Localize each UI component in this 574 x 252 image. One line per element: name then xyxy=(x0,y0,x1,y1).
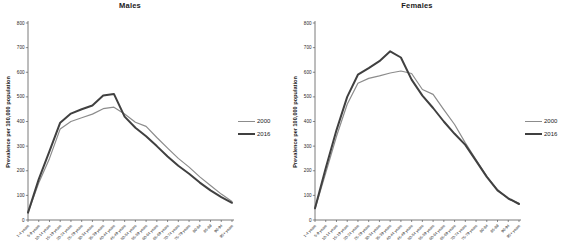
males-legend: 2000 2016 xyxy=(238,118,270,144)
svg-text:0: 0 xyxy=(309,218,312,223)
females-chart: Females Prevalence per 100,000 populatio… xyxy=(287,0,574,252)
svg-text:85-89: 85-89 xyxy=(489,223,500,234)
svg-text:400: 400 xyxy=(304,119,312,124)
svg-text:500: 500 xyxy=(304,94,312,99)
females-legend-item-2016: 2016 xyxy=(525,131,557,137)
prevalence-by-age-figure: Males Prevalence per 100,000 population … xyxy=(0,0,574,252)
svg-text:300: 300 xyxy=(17,144,25,149)
series-2000-line xyxy=(315,71,519,209)
svg-text:300: 300 xyxy=(304,144,312,149)
series-2016-line xyxy=(315,51,519,208)
svg-text:85-89: 85-89 xyxy=(202,223,213,234)
svg-text:600: 600 xyxy=(17,70,25,75)
females-legend-label-2000: 2000 xyxy=(544,118,557,124)
svg-text:0: 0 xyxy=(22,218,25,223)
svg-text:800: 800 xyxy=(17,21,25,26)
svg-text:100: 100 xyxy=(17,193,25,198)
males-chart: Males Prevalence per 100,000 population … xyxy=(0,0,287,252)
svg-text:800: 800 xyxy=(304,21,312,26)
svg-text:700: 700 xyxy=(304,45,312,50)
svg-text:80-84: 80-84 xyxy=(191,223,202,234)
2000-line-swatch xyxy=(525,121,542,122)
males-legend-item-2000: 2000 xyxy=(238,118,270,124)
males-legend-item-2016: 2016 xyxy=(238,131,270,137)
y-tick-labels: 0100200300400500600700800 xyxy=(17,21,28,223)
svg-text:500: 500 xyxy=(17,94,25,99)
2000-line-swatch xyxy=(238,121,255,122)
svg-text:80-84: 80-84 xyxy=(478,223,489,234)
svg-text:600: 600 xyxy=(304,70,312,75)
males-legend-label-2000: 2000 xyxy=(257,118,270,124)
svg-text:200: 200 xyxy=(17,168,25,173)
svg-text:400: 400 xyxy=(17,119,25,124)
females-legend-item-2000: 2000 xyxy=(525,118,557,124)
females-legend-label-2016: 2016 xyxy=(544,131,557,137)
svg-text:100: 100 xyxy=(304,193,312,198)
2016-line-swatch xyxy=(525,133,542,135)
males-legend-label-2016: 2016 xyxy=(257,131,270,137)
females-legend: 2000 2016 xyxy=(525,118,557,144)
axes xyxy=(28,21,234,220)
y-tick-labels: 0100200300400500600700800 xyxy=(304,21,315,223)
2016-line-swatch xyxy=(238,133,255,135)
x-tick-labels: 1-4 years5-9 years10-14 years15-19 years… xyxy=(15,220,234,241)
svg-text:700: 700 xyxy=(17,45,25,50)
x-tick-labels: 1-4 years5-9 years10-14 years15-19 years… xyxy=(302,220,521,241)
svg-text:200: 200 xyxy=(304,168,312,173)
series-2016-line xyxy=(28,94,232,213)
axes xyxy=(315,21,521,220)
